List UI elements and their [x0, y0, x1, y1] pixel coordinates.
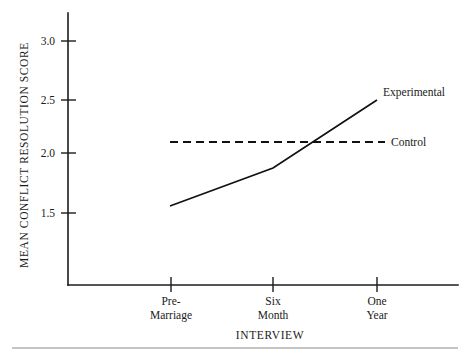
y-tick-label-1-5: 1.5	[41, 207, 56, 219]
x-tick-label-pre-marriage-line1: Pre-	[161, 295, 180, 307]
x-tick-label-six-month-line1: Six	[265, 295, 281, 307]
x-axis-title: INTERVIEW	[236, 329, 304, 341]
y-tick-label-2-5: 2.5	[41, 94, 56, 106]
x-tick-label-six-month-line2: Month	[258, 309, 289, 321]
y-axis-title: MEAN CONFLICT RESOLUTION SCORE	[18, 42, 30, 268]
x-tick-label-pre-marriage-line2: Marriage	[150, 309, 192, 322]
legend-label-experimental: Experimental	[383, 86, 445, 99]
series-line-experimental	[170, 100, 377, 206]
figure-page: 3.0 2.5 2.0 1.5 Pre- Marriage Six Month …	[0, 0, 469, 361]
y-tick-label-3-0: 3.0	[41, 35, 56, 47]
x-tick-label-one-year-line2: Year	[366, 309, 387, 321]
x-tick-label-one-year-line1: One	[367, 295, 386, 307]
y-tick-label-2-0: 2.0	[41, 147, 56, 159]
legend-label-control: Control	[391, 136, 426, 148]
line-chart: 3.0 2.5 2.0 1.5 Pre- Marriage Six Month …	[0, 0, 469, 361]
